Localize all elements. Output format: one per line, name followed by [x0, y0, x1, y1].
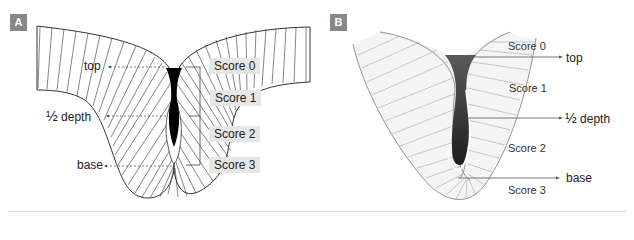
panel-b-score-0: Score 0 [508, 40, 546, 52]
panel-b-score-1: Score 1 [509, 82, 547, 94]
panel-b-label-top: top [566, 51, 583, 65]
panel-b-depth-text: depth [580, 112, 610, 126]
panel-b-label-base: base [566, 171, 592, 185]
panel-b-half-fraction: ½ [565, 110, 577, 126]
bottom-divider [8, 211, 626, 212]
panel-b-score-2: Score 2 [508, 142, 546, 154]
panel-b-score-3: Score 3 [508, 184, 546, 196]
panel-b-label-half-depth: ½ depth [565, 110, 610, 126]
